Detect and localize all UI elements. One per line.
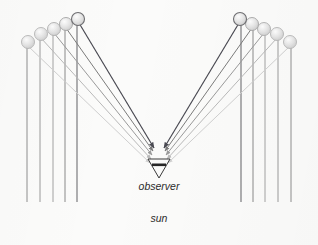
refracted-rays-left: [28, 23, 154, 163]
rainbow-ray-diagram: observer sun: [0, 0, 318, 245]
observer-label: observer: [139, 180, 180, 192]
vertical-sunlight-rays-right: [241, 19, 291, 202]
vertical-sunlight-rays-left: [27, 19, 77, 202]
diagram-canvas: [0, 0, 318, 245]
observer-icon: [148, 159, 170, 178]
sun-label: sun: [151, 212, 168, 224]
refracted-rays-right: [164, 23, 290, 163]
